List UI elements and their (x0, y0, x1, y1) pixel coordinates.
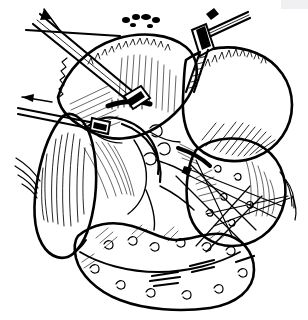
omentum-outline (75, 223, 254, 310)
liver-right-lobe-outline (183, 47, 292, 161)
omentum-lobule-divide (80, 252, 240, 272)
retractor-knob (206, 8, 219, 20)
clamp-shaft-b (40, 14, 138, 96)
suture-3 (190, 164, 256, 230)
mid-right-lobe-outline (187, 138, 286, 246)
omentum-feathering (82, 225, 224, 268)
clamp-crossbar (26, 30, 120, 36)
surgical-anatomy-illustration: Operative field line illustration (0, 0, 308, 320)
porta-hepatis-group (108, 98, 210, 230)
gallbladder-outline (35, 114, 97, 258)
right-lobe-serration (205, 49, 266, 66)
portal-branch (128, 140, 146, 214)
liver-right-lobe-group (183, 47, 292, 161)
omentum-group (75, 223, 254, 310)
liver-left-lobe-border-serration (88, 38, 170, 64)
mid-right-lobe-group (187, 138, 286, 246)
gallbladder-hatching (42, 133, 85, 226)
arrow-up-left (40, 9, 61, 32)
clamp-upper-left[interactable] (26, 14, 150, 109)
fat-flecks (122, 14, 160, 28)
mesentery-fan-hatching (84, 142, 134, 198)
illustration-canvas: Operative field line illustration (0, 0, 308, 320)
suture-knot (182, 166, 192, 175)
left-tissue-tags (15, 158, 40, 198)
paper-smudge (281, 0, 308, 9)
descending-branch (146, 190, 155, 230)
arrow-left (22, 94, 52, 102)
